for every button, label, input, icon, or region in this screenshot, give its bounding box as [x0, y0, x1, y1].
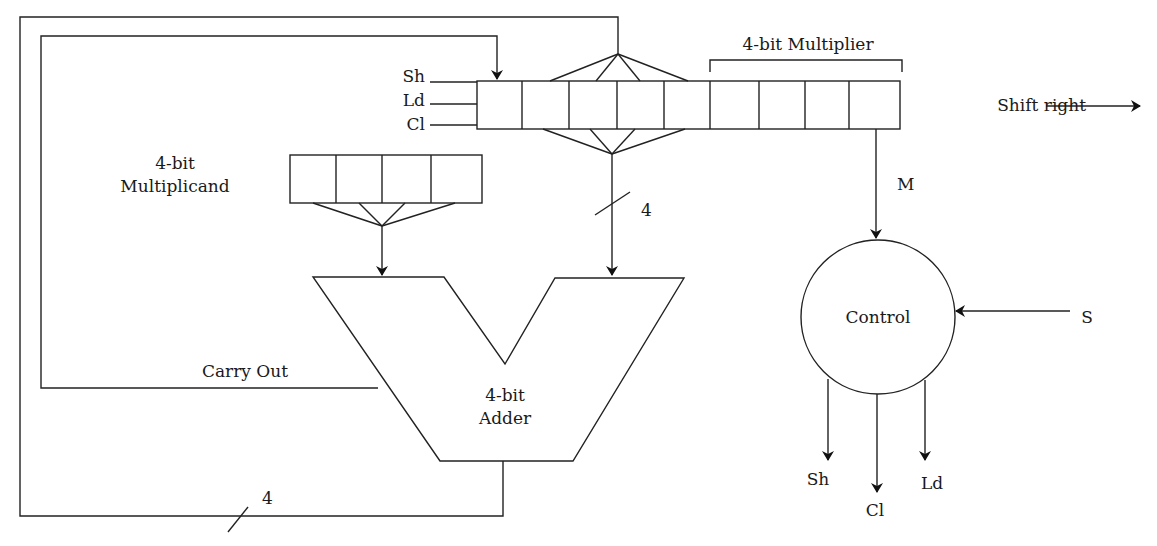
bus-width-top-label: 4: [641, 200, 652, 220]
carry-out-label: Carry Out: [202, 361, 288, 381]
output-sh-label: Sh: [807, 469, 830, 489]
register-control-inputs: [430, 82, 477, 125]
adder-label-line2: Adder: [478, 408, 532, 428]
output-cl-label: Cl: [866, 500, 884, 520]
control-label: Control: [846, 307, 911, 327]
multiplier-block-diagram: 4-bit Multiplier Sh Ld Cl 4-bit Multipli…: [0, 0, 1157, 546]
input-cl-label: Cl: [407, 114, 425, 134]
bus-width-slash-bottom: [228, 507, 248, 532]
accumulator-fan-out: [543, 129, 685, 275]
multiplier-bracket: [710, 60, 902, 72]
output-ld-label: Ld: [921, 473, 943, 493]
multiplier-label: 4-bit Multiplier: [742, 34, 874, 54]
accumulator-fan-in: [550, 54, 688, 81]
bus-width-bottom-label: 4: [262, 488, 273, 508]
adder-label-line1: 4-bit: [485, 385, 525, 405]
product-register: [477, 81, 900, 129]
multiplicand-label-line1: 4-bit: [155, 153, 195, 173]
adder-block: [313, 277, 684, 461]
m-signal-label: M: [897, 174, 914, 194]
multiplicand-label-line2: Multiplicand: [120, 176, 229, 196]
input-sh-label: Sh: [402, 66, 425, 86]
input-ld-label: Ld: [403, 90, 425, 110]
shift-right-label: Shift right: [997, 95, 1086, 115]
multiplicand-register: [290, 155, 482, 275]
s-signal-label: S: [1081, 307, 1093, 327]
